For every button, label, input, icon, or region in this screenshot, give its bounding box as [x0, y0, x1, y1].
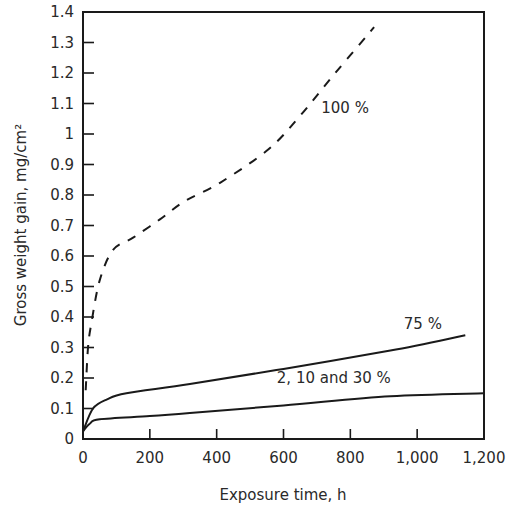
x-tick-label: 1,200 — [463, 449, 506, 467]
y-tick-label: 1.3 — [50, 34, 74, 52]
y-tick-label: 0.1 — [50, 400, 74, 418]
y-tick-label: 0.3 — [50, 339, 74, 357]
y-tick-label: 1.4 — [50, 3, 74, 21]
chart: 00.10.20.30.40.50.60.70.80.911.11.21.31.… — [0, 0, 525, 521]
x-tick-label: 800 — [336, 449, 365, 467]
y-tick-label: 1 — [64, 125, 74, 143]
y-tick-label: 0.4 — [50, 308, 74, 326]
series-label: 75 % — [404, 315, 442, 333]
y-tick-label: 1.2 — [50, 64, 74, 82]
y-axis-ticks: 00.10.20.30.40.50.60.70.80.911.11.21.31.… — [50, 3, 94, 448]
y-tick-label: 0 — [64, 430, 74, 448]
series-label: 100 % — [321, 99, 369, 117]
x-axis-title: Exposure time, h — [219, 486, 346, 504]
x-tick-label: 200 — [136, 449, 165, 467]
x-tick-label: 1,000 — [396, 449, 439, 467]
series-label: 2, 10 and 30 % — [277, 369, 391, 387]
y-axis-title: Gross weight gain, mg/cm² — [12, 124, 30, 326]
x-tick-label: 600 — [269, 449, 298, 467]
y-tick-label: 1.1 — [50, 95, 74, 113]
series-labels: 100 %75 %2, 10 and 30 % — [277, 99, 442, 387]
y-tick-label: 0.2 — [50, 369, 74, 387]
y-tick-label: 0.6 — [50, 247, 74, 265]
series-line — [83, 393, 484, 431]
y-tick-label: 0.9 — [50, 156, 74, 174]
y-tick-label: 0.7 — [50, 217, 74, 235]
x-tick-label: 0 — [78, 449, 88, 467]
series-line — [86, 27, 374, 390]
y-tick-label: 0.5 — [50, 278, 74, 296]
x-axis-ticks: 02004006008001,0001,200 — [78, 429, 505, 467]
y-tick-label: 0.8 — [50, 186, 74, 204]
x-tick-label: 400 — [202, 449, 231, 467]
